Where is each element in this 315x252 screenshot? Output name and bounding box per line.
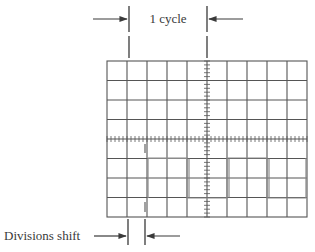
shift-annotation: Divisions shift (4, 219, 180, 245)
oscilloscope-diagram: 1 cycle D (0, 0, 315, 252)
cycle-annotation: 1 cycle (93, 6, 243, 58)
shift-label: Divisions shift (4, 228, 81, 243)
cycle-label: 1 cycle (149, 11, 186, 26)
